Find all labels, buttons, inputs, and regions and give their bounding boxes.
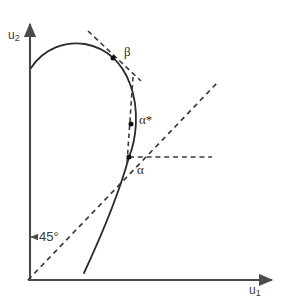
forty-five-degree-line <box>28 82 218 280</box>
point-label-alpha: α <box>137 162 144 178</box>
point-alpha <box>127 155 132 160</box>
y-axis-label: u2 <box>8 28 20 43</box>
figure-canvas: u2 u1 45° β α* α <box>0 0 292 305</box>
angle-45-label: 45° <box>39 229 59 244</box>
x-axis-label: u1 <box>249 283 261 298</box>
point-beta <box>111 56 116 61</box>
point-label-alpha-star: α* <box>139 112 152 128</box>
diagram-svg <box>0 0 292 305</box>
point-alpha-star <box>129 122 134 127</box>
point-label-beta: β <box>124 44 131 60</box>
